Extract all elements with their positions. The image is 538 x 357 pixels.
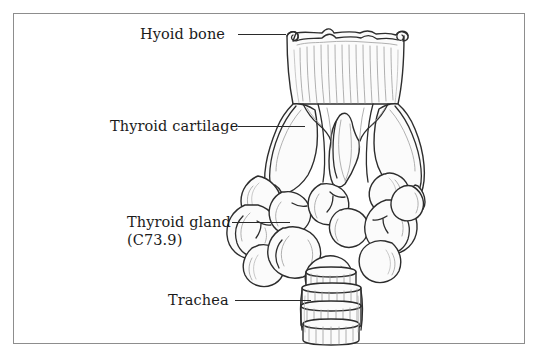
label-thyroid-gland-code: (C73.9) — [127, 231, 231, 249]
leader-line-hyoid-bone — [238, 34, 286, 35]
leader-line-trachea — [235, 300, 311, 301]
leader-line-thyroid-gland — [232, 222, 290, 223]
label-thyroid-cartilage: Thyroid cartilage — [110, 118, 238, 135]
label-thyroid-gland: Thyroid gland (C73.9) — [127, 213, 231, 249]
label-thyroid-gland-line1: Thyroid gland — [127, 214, 231, 230]
figure-root: .ol { fill:#ffffff; stroke:#2d2d2d; stro… — [0, 0, 538, 357]
leader-line-thyroid-cartilage — [238, 126, 305, 127]
label-hyoid-bone: Hyoid bone — [140, 26, 225, 43]
label-trachea: Trachea — [168, 292, 229, 309]
illustration-group — [227, 29, 425, 345]
thyroid-anatomy-illustration: .ol { fill:#ffffff; stroke:#2d2d2d; stro… — [0, 0, 538, 357]
trachea-shape — [301, 267, 363, 345]
hyoid-bone-shape — [287, 29, 408, 104]
